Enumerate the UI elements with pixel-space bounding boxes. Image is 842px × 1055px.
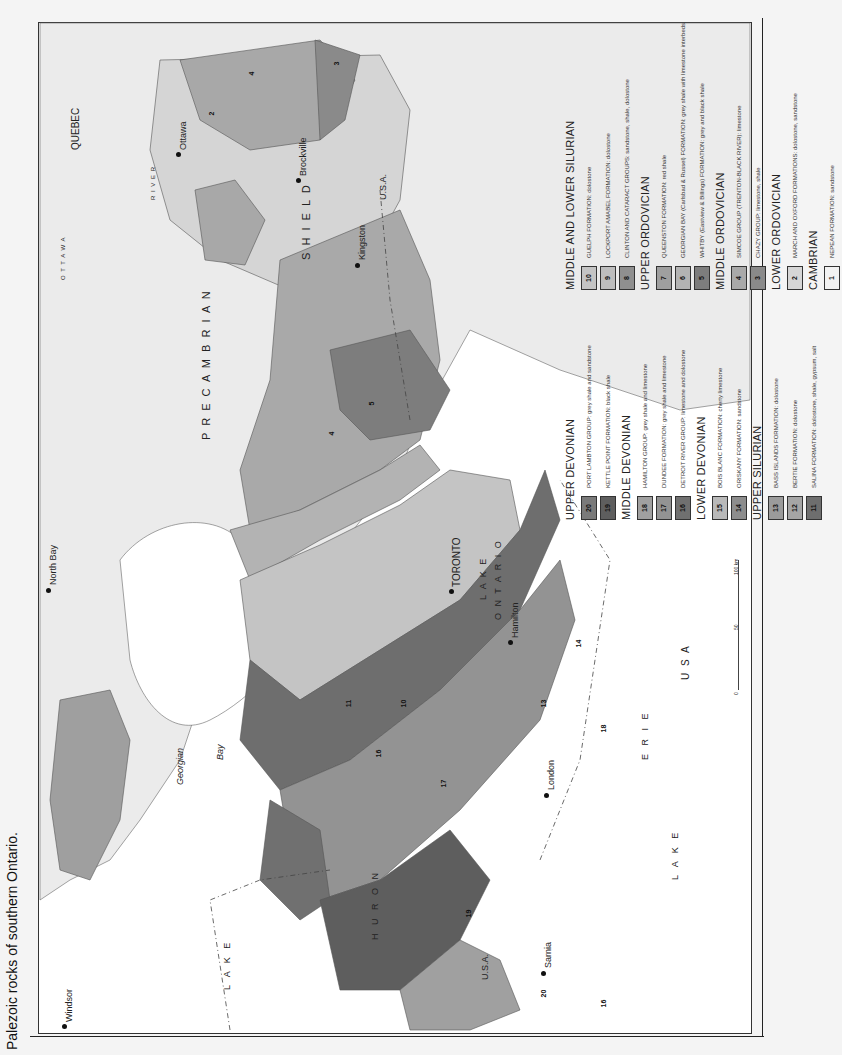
- label-bay: Bay: [215, 744, 225, 760]
- legend-item-16: 16DETROIT RIVER GROUP: limestone and dol…: [674, 280, 691, 520]
- legend-item-8: 8CLINTON AND CATARACT GROUPS: sandstone,…: [618, 0, 635, 290]
- unit-label: 17: [440, 780, 447, 788]
- city-dot-toronto: [449, 589, 454, 594]
- unit-label: 18: [600, 725, 607, 733]
- legend-heading: MIDDLE AND LOWER SILURIAN: [564, 0, 576, 290]
- swatch-20: 20: [581, 496, 597, 520]
- unit-label: 4: [248, 72, 255, 76]
- legend-item-15: 15BOIS BLANC FORMATION: cherty limestone: [711, 280, 728, 520]
- city-dot-hamilton: [508, 640, 513, 645]
- legend-heading: UPPER ORDOVICIAN: [639, 0, 651, 290]
- label-lake-erie-2: E R I E: [640, 710, 650, 760]
- label-precambrian: P R E C A M B R I A N: [200, 289, 212, 440]
- label-lake-huron-2: H U R O N: [370, 870, 380, 940]
- legend-text: LOCKPORT AMABEL FORMATION: dolostone: [605, 133, 611, 258]
- swatch-10: 10: [581, 266, 597, 290]
- city-dot-ottawa: [176, 152, 181, 157]
- legend-text: BOIS BLANC FORMATION: cherty limestone: [717, 368, 723, 488]
- label-lake-ontario-1: L A K E: [478, 557, 488, 600]
- unit-label: 16: [375, 750, 382, 758]
- swatch-11: 11: [806, 496, 822, 520]
- legend-text: SALINA FORMATION: dolostone, shale, gyps…: [811, 346, 817, 488]
- legend-group-upper-ordovician: UPPER ORDOVICIAN 7QUEENSTON FORMATION: r…: [639, 0, 710, 290]
- unit-label: 4: [328, 432, 335, 436]
- label-usa-south: U S A: [680, 644, 691, 680]
- scale-mid: 50: [733, 624, 739, 630]
- legend-left-column: UPPER DEVONIAN 20PORT LAMBTON GROUP: gre…: [560, 280, 824, 520]
- scale-zero: 0: [733, 692, 739, 695]
- city-kingston: Kingston: [357, 225, 367, 260]
- legend-item-10: 10GUELPH FORMATION: dolostone: [580, 0, 597, 290]
- legend-item-7: 7QUEENSTON FORMATION: red shale: [655, 0, 672, 290]
- legend-group-cambrian: CAMBRIAN 1NEPEAN FORMATION: sandstone: [807, 0, 840, 290]
- legend-item-9: 9LOCKPORT AMABEL FORMATION: dolostone: [599, 0, 616, 290]
- city-dot-london: [544, 793, 549, 798]
- label-lake-erie-1: L A K E: [670, 830, 680, 880]
- legend-text: SIMCOE GROUP (TRENTON-BLACK RIVER): lime…: [736, 106, 742, 258]
- city-ottawa: Ottawa: [178, 121, 188, 150]
- legend-group-middle-devonian: MIDDLE DEVONIAN 18HAMILTON GROUP: grey s…: [620, 280, 691, 520]
- city-dot-north-bay: [46, 588, 51, 593]
- legend-item-1: 1NEPEAN FORMATION: sandstone: [823, 0, 840, 290]
- city-dot-windsor: [62, 1024, 67, 1029]
- swatch-13: 13: [768, 496, 784, 520]
- legend-group-upper-silurian: UPPER SILURIAN 13BASS ISLANDS FORMATION:…: [751, 280, 822, 520]
- swatch-9: 9: [600, 266, 616, 290]
- legend-item-5: 5WHITBY (Eastview & Billings) FORMATION:…: [693, 0, 710, 290]
- legend-item-2: 2MARCH AND OXFORD FORMATIONS: dolostone,…: [786, 0, 803, 290]
- label-lake-huron-1: L A K E: [222, 940, 232, 990]
- swatch-3: 3: [750, 266, 766, 290]
- legend-right-column: MIDDLE AND LOWER SILURIAN 10GUELPH FORMA…: [560, 0, 842, 290]
- legend-item-11: 11SALINA FORMATION: dolostone, shale, gy…: [805, 280, 822, 520]
- legend-text: CLINTON AND CATARACT GROUPS: sandstone, …: [624, 79, 630, 258]
- unit-label: 2: [208, 112, 215, 116]
- legend-text: MARCH AND OXFORD FORMATIONS: dolostone, …: [792, 93, 798, 258]
- legend-text: DETROIT RIVER GROUP: limestone and dolos…: [680, 350, 686, 488]
- label-lake-ontario-2: O N T A R I O: [493, 539, 503, 620]
- legend-text: ORISKANY FORMATION: sandstone: [736, 389, 742, 488]
- legend-text: GEORGIAN BAY (Carlsbad & Russel) FORMATI…: [680, 23, 686, 258]
- legend-item-14: 14ORISKANY FORMATION: sandstone: [730, 280, 747, 520]
- legend-group-upper-devonian: UPPER DEVONIAN 20PORT LAMBTON GROUP: gre…: [564, 280, 616, 520]
- legend-text: NEPEAN FORMATION: sandstone: [829, 165, 835, 258]
- legend-item-12: 12BERTIE FORMATION: dolostone: [786, 280, 803, 520]
- unit-label: 20: [540, 990, 547, 998]
- city-dot-sarnia: [541, 971, 546, 976]
- manitoulin-islands: [50, 690, 130, 880]
- legend-text: QUEENSTON FORMATION: red shale: [661, 155, 667, 258]
- legend-group-lower-ordovician: LOWER ORDOVICIAN 2MARCH AND OXFORD FORMA…: [770, 0, 803, 290]
- unit-label: 19: [465, 910, 472, 918]
- legend-group-lower-devonian: LOWER DEVONIAN 15BOIS BLANC FORMATION: c…: [695, 280, 747, 520]
- legend-text: CHAZY GROUP: limestone, shale: [755, 167, 761, 258]
- scale-end: 100 km: [733, 559, 739, 575]
- legend-item-17: 17DUNDEE FORMATION: grey shale and limes…: [655, 280, 672, 520]
- legend-heading: LOWER DEVONIAN: [695, 280, 707, 520]
- unit-label: 14: [575, 640, 582, 648]
- legend-group-middle-ordovician: MIDDLE ORDOVICIAN 4SIMCOE GROUP (TRENTON…: [714, 0, 766, 290]
- label-usa-east: U.S.A.: [378, 174, 388, 200]
- legend-heading: UPPER DEVONIAN: [564, 280, 576, 520]
- city-north-bay: North Bay: [48, 545, 58, 585]
- swatch-5: 5: [694, 266, 710, 290]
- legend-heading: UPPER SILURIAN: [751, 280, 763, 520]
- city-toronto: TORONTO: [451, 537, 462, 587]
- city-windsor: Windsor: [64, 989, 74, 1022]
- label-river: R I V E R: [150, 166, 156, 200]
- swatch-1: 1: [824, 266, 840, 290]
- label-usa-west: U.S.A.: [480, 954, 490, 980]
- legend-text: WHITBY (Eastview & Billings) FORMATION: …: [699, 83, 705, 258]
- legend-heading: LOWER ORDOVICIAN: [770, 0, 782, 290]
- city-dot-kingston: [355, 263, 360, 268]
- legend-group-middle-lower-silurian: MIDDLE AND LOWER SILURIAN 10GUELPH FORMA…: [564, 0, 635, 290]
- legend-text: DUNDEE FORMATION: grey shale and limesto…: [661, 355, 667, 488]
- label-shield: S H I E L D: [300, 183, 312, 260]
- legend-item-4: 4SIMCOE GROUP (TRENTON-BLACK RIVER): lim…: [730, 0, 747, 290]
- swatch-17: 17: [656, 496, 672, 520]
- swatch-4: 4: [731, 266, 747, 290]
- legend-heading: CAMBRIAN: [807, 0, 819, 290]
- city-sarnia: Sarnia: [543, 942, 553, 968]
- legend-text: HAMILTON GROUP: grey shale and limestone: [642, 364, 648, 488]
- legend-text: GUELPH FORMATION: dolostone: [586, 167, 592, 258]
- swatch-16: 16: [675, 496, 691, 520]
- city-brockville: Brockville: [298, 137, 308, 176]
